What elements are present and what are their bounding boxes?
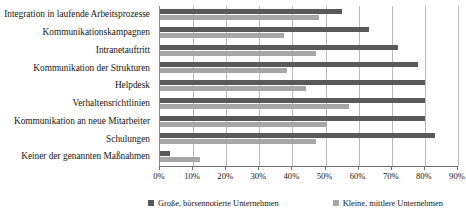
bar-segment: [160, 51, 316, 56]
bar-segment: [160, 9, 342, 14]
axis-tick-label: 0%: [153, 171, 164, 181]
category-label: Helpdesk: [0, 77, 155, 95]
axis-tick: [159, 166, 160, 170]
category-label: Kommunikation an neue Mitarbeiter: [0, 113, 155, 131]
legend-swatch-icon: [333, 200, 339, 206]
category-label: Verhaltensrichtlinien: [0, 95, 155, 113]
bar-segment: [160, 68, 287, 73]
bar-segment: [160, 98, 425, 103]
bar-segment: [160, 15, 319, 20]
bar-row: [160, 6, 457, 24]
axis-tick-label: 10%: [184, 171, 200, 181]
category-label: Kommunikationskampagnen: [0, 24, 155, 42]
bar-row: [160, 113, 457, 131]
bar-segment: [160, 104, 349, 109]
category-label: Schulungen: [0, 130, 155, 148]
legend-item-sme-companies: Kleine, mittlere Unternehmen: [333, 199, 443, 208]
bar-row: [160, 77, 457, 95]
axis-tick-label: 90%: [449, 171, 465, 181]
bar-row: [160, 130, 457, 148]
category-label: Integration in laufende Arbeitsprozesse: [0, 6, 155, 24]
axis-tick: [258, 166, 259, 170]
axis-tick-label: 30%: [250, 171, 266, 181]
bar-segment: [160, 80, 425, 85]
category-label: Kommunikation der Strukturen: [0, 59, 155, 77]
bar-segment: [160, 116, 425, 121]
axis-tick-label: 50%: [317, 171, 333, 181]
axis-tick: [457, 166, 458, 170]
bar-segment: [160, 122, 327, 127]
bar-row: [160, 148, 457, 166]
bar-row: [160, 95, 457, 113]
bar-segment: [160, 151, 170, 156]
bar-segment: [160, 86, 306, 91]
bar-segment: [160, 139, 316, 144]
axis-tick: [192, 166, 193, 170]
axis-tick-label: 80%: [416, 171, 432, 181]
category-axis-labels: Integration in laufende ArbeitsprozesseK…: [0, 6, 155, 166]
bar-row: [160, 59, 457, 77]
bar-segment: [160, 157, 200, 162]
legend-swatch-icon: [148, 200, 154, 206]
axis-tick: [225, 166, 226, 170]
x-axis-ticks: [159, 166, 457, 170]
axis-tick-label: 20%: [217, 171, 233, 181]
x-axis-tick-labels: 0%10%20%30%40%50%60%70%80%90%: [0, 171, 466, 183]
bar-segment: [160, 45, 398, 50]
bar-segment: [160, 133, 435, 138]
axis-tick-label: 70%: [383, 171, 399, 181]
bar-row: [160, 42, 457, 60]
axis-tick: [424, 166, 425, 170]
category-label: Keiner der genannten Maßnahmen: [0, 148, 155, 166]
legend: Große, börsennotierte Unternehmen Kleine…: [0, 196, 466, 210]
axis-tick: [291, 166, 292, 170]
axis-tick-label: 40%: [284, 171, 300, 181]
bar-rows: [160, 6, 457, 166]
bar-chart: Integration in laufende ArbeitsprozesseK…: [0, 0, 466, 218]
plot-area: [159, 6, 457, 166]
bar-segment: [160, 62, 418, 67]
bar-row: [160, 24, 457, 42]
axis-tick: [358, 166, 359, 170]
legend-item-large-companies: Große, börsennotierte Unternehmen: [148, 199, 279, 208]
axis-tick-label: 60%: [350, 171, 366, 181]
gridline: [458, 6, 459, 166]
bar-segment: [160, 33, 284, 38]
axis-tick: [325, 166, 326, 170]
bar-segment: [160, 27, 369, 32]
category-label: Intranetauftritt: [0, 42, 155, 60]
legend-label: Große, börsennotierte Unternehmen: [158, 199, 279, 208]
axis-tick: [391, 166, 392, 170]
legend-label: Kleine, mittlere Unternehmen: [343, 199, 443, 208]
